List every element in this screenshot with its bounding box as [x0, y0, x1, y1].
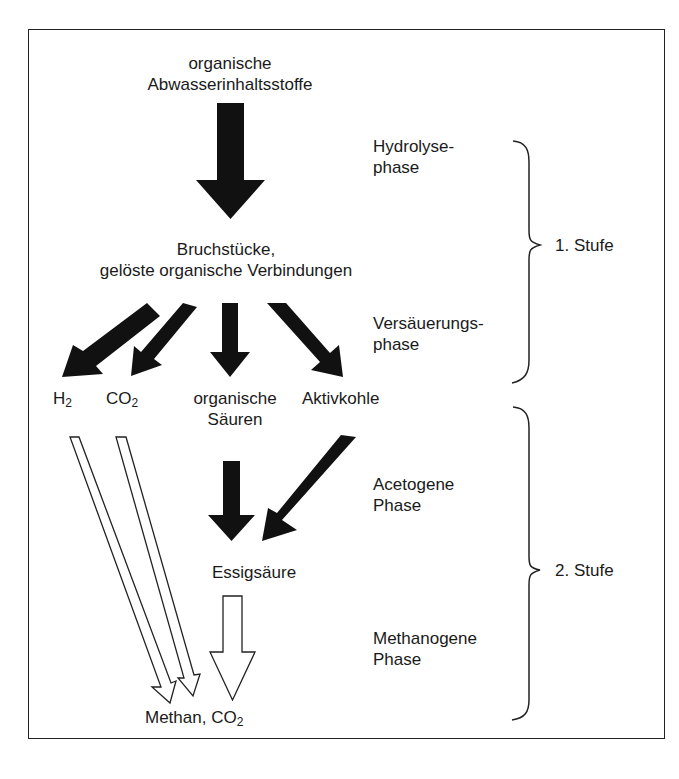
acids-label: organische Säuren: [193, 388, 276, 430]
input-label: organische Abwasserinhaltsstoffe: [147, 53, 312, 95]
fragments-label: Bruchstücke, gelöste organische Verbindu…: [100, 239, 352, 281]
phase-hydrolysis: Hydrolyse- phase: [373, 136, 454, 178]
hydrolysis-arrow: [196, 103, 265, 219]
activated-carbon-label: Aktivkohle: [302, 388, 379, 409]
phase-methanogenic-line1: Methanogene: [373, 628, 477, 649]
h2-label: H2: [53, 388, 72, 409]
output-sub: 2: [237, 715, 244, 729]
phase-acetogenic-line2: Phase: [373, 495, 454, 516]
arrow-acids-to-acetic: [208, 461, 255, 541]
phase-acidification-line1: Versäuerungs-: [373, 313, 484, 334]
h2-sub: 2: [65, 396, 72, 410]
phase-hydrolysis-line2: phase: [373, 157, 454, 178]
input-label-line2: Abwasserinhaltsstoffe: [147, 74, 312, 95]
stage-2-label: 2. Stufe: [555, 560, 614, 581]
brace-stage-2: [512, 407, 540, 720]
co2-label: CO2: [106, 388, 138, 409]
arrow-to-acids: [210, 303, 250, 377]
phase-acidification: Versäuerungs- phase: [373, 313, 484, 355]
acids-label-line2: Säuren: [193, 409, 276, 430]
phase-acidification-line2: phase: [373, 334, 484, 355]
co2-sub: 2: [132, 396, 139, 410]
input-label-line1: organische: [147, 53, 312, 74]
arrow-to-activated-carbon: [267, 303, 343, 377]
phase-acetogenic-line1: Acetogene: [373, 474, 454, 495]
co2-base: CO: [106, 389, 132, 408]
brace-stage-1: [512, 141, 540, 383]
acetic-acid-label: Essigsäure: [212, 562, 296, 583]
h2-base: H: [53, 389, 65, 408]
fragments-label-line1: Bruchstücke,: [100, 239, 352, 260]
arrow-acetic-to-methane: [210, 596, 255, 700]
acids-label-line1: organische: [193, 388, 276, 409]
output-label: Methan, CO2: [145, 707, 243, 728]
phase-methanogenic: Methanogene Phase: [373, 628, 477, 670]
output-base: Methan, CO: [145, 708, 237, 727]
arrow-carbon-to-acetic: [262, 435, 356, 541]
fragments-label-line2: gelöste organische Verbindungen: [100, 260, 352, 281]
phase-acetogenic: Acetogene Phase: [373, 474, 454, 516]
phase-methanogenic-line2: Phase: [373, 649, 477, 670]
phase-hydrolysis-line1: Hydrolyse-: [373, 136, 454, 157]
stage-1-label: 1. Stufe: [555, 235, 614, 256]
